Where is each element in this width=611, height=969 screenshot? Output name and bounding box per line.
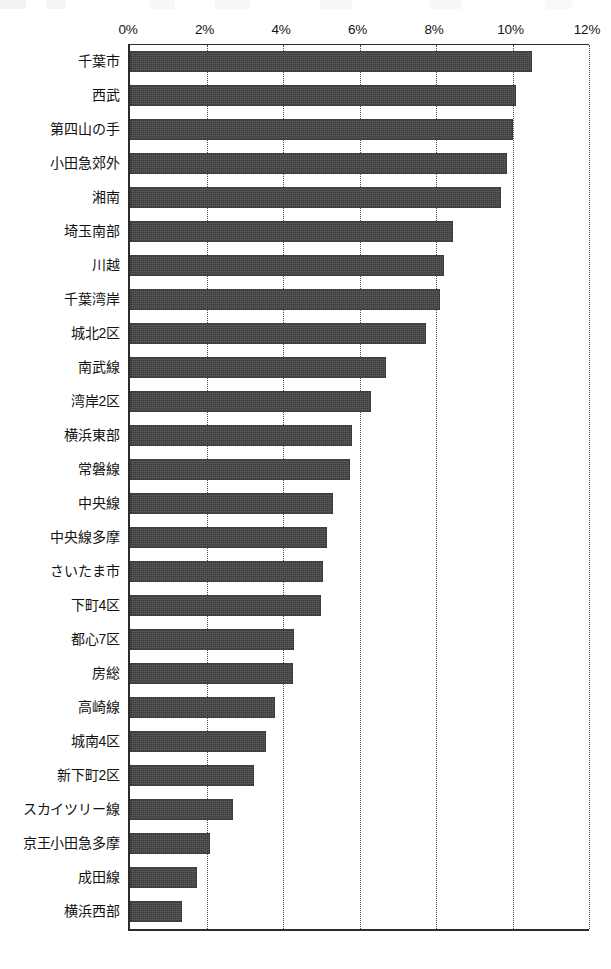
bar-row xyxy=(130,249,589,283)
bar-row xyxy=(130,113,589,147)
x-axis-tick-labels: 0%2%4%6%8%10%12% xyxy=(0,21,611,39)
y-axis-label-row: 城北2区 xyxy=(0,316,124,350)
bar xyxy=(130,391,371,412)
y-axis-label-row: 川越 xyxy=(0,248,124,282)
bar xyxy=(130,323,426,344)
x-tick-label: 4% xyxy=(271,21,290,39)
bar xyxy=(130,119,513,140)
y-axis-label: 京王小田急多摩 xyxy=(23,833,124,853)
y-axis-label-row: 横浜西部 xyxy=(0,894,124,928)
bar-row xyxy=(130,589,589,623)
y-axis-label-row: 千葉市 xyxy=(0,44,124,78)
y-axis-label-row: 南武線 xyxy=(0,350,124,384)
bar-row xyxy=(130,79,589,113)
y-axis-label: 小田急郊外 xyxy=(50,153,124,173)
y-axis-label: 横浜東部 xyxy=(64,425,124,445)
bar-row xyxy=(130,521,589,555)
y-axis-label: 湾岸2区 xyxy=(71,391,124,411)
y-axis-label-row: 第四山の手 xyxy=(0,112,124,146)
bar xyxy=(130,187,501,208)
y-axis-label-row: 西武 xyxy=(0,78,124,112)
y-axis-label: さいたま市 xyxy=(50,561,124,581)
bar-row xyxy=(130,283,589,317)
bar xyxy=(130,221,453,242)
y-axis-label: 千葉市 xyxy=(78,51,124,71)
y-axis-label: 西武 xyxy=(92,85,124,105)
y-axis-label: スカイツリー線 xyxy=(23,799,124,819)
bar-row xyxy=(130,317,589,351)
bar-row xyxy=(130,385,589,419)
bar xyxy=(130,629,294,650)
bar xyxy=(130,799,233,820)
y-axis-label-row: スカイツリー線 xyxy=(0,792,124,826)
y-axis-label: 中央線多摩 xyxy=(50,527,124,547)
y-axis-label: 第四山の手 xyxy=(50,119,124,139)
y-axis-label-row: 城南4区 xyxy=(0,724,124,758)
bar xyxy=(130,731,266,752)
y-axis-label-row: 下町4区 xyxy=(0,588,124,622)
bar xyxy=(130,289,440,310)
bar xyxy=(130,561,323,582)
y-axis-label: 常磐線 xyxy=(78,459,124,479)
x-tick-label: 10% xyxy=(497,21,523,39)
y-axis-label: 高崎線 xyxy=(78,697,124,717)
bar xyxy=(130,425,352,446)
y-axis-label-row: 横浜東部 xyxy=(0,418,124,452)
bar xyxy=(130,459,350,480)
x-tick-label: 6% xyxy=(348,21,367,39)
y-axis-label: 都心7区 xyxy=(71,629,124,649)
bar-row xyxy=(130,623,589,657)
bar-row xyxy=(130,725,589,759)
y-axis-label: 城南4区 xyxy=(71,731,124,751)
bar-row xyxy=(130,691,589,725)
y-axis-label-row: 埼玉南部 xyxy=(0,214,124,248)
y-axis-label-row: 中央線 xyxy=(0,486,124,520)
bar-row xyxy=(130,827,589,861)
bar xyxy=(130,663,293,684)
y-axis-label: 新下町2区 xyxy=(57,765,124,785)
bar-row xyxy=(130,657,589,691)
plot-area xyxy=(128,44,589,931)
y-axis-label-row: 湘南 xyxy=(0,180,124,214)
y-axis-label-row: 高崎線 xyxy=(0,690,124,724)
bar xyxy=(130,51,532,72)
x-tick-label: 12% xyxy=(574,21,600,39)
bar xyxy=(130,493,333,514)
bar-row xyxy=(130,215,589,249)
gridline xyxy=(589,45,590,929)
bar xyxy=(130,901,182,922)
bar-row xyxy=(130,555,589,589)
y-axis-label-row: 房総 xyxy=(0,656,124,690)
y-axis-label: 湘南 xyxy=(92,187,124,207)
bar-row xyxy=(130,453,589,487)
y-axis-label: 成田線 xyxy=(78,867,124,887)
bar xyxy=(130,595,321,616)
x-tick-label: 0% xyxy=(118,21,137,39)
bar-row xyxy=(130,759,589,793)
y-axis-label-row: 成田線 xyxy=(0,860,124,894)
bar xyxy=(130,85,516,106)
y-axis-category-labels: 千葉市西武第四山の手小田急郊外湘南埼玉南部川越千葉湾岸城北2区南武線湾岸2区横浜… xyxy=(0,44,124,928)
y-axis-label: 下町4区 xyxy=(71,595,124,615)
y-axis-label-row: 新下町2区 xyxy=(0,758,124,792)
y-axis-label: 城北2区 xyxy=(71,323,124,343)
bar-row xyxy=(130,793,589,827)
y-axis-label-row: 小田急郊外 xyxy=(0,146,124,180)
bar xyxy=(130,255,444,276)
y-axis-label: 南武線 xyxy=(78,357,124,377)
horizontal-bar-chart: 0%2%4%6%8%10%12% 千葉市西武第四山の手小田急郊外湘南埼玉南部川越… xyxy=(0,0,611,969)
y-axis-label-row: さいたま市 xyxy=(0,554,124,588)
y-axis-label: 房総 xyxy=(92,663,124,683)
bar xyxy=(130,357,386,378)
x-tick-label: 8% xyxy=(424,21,443,39)
bar-row xyxy=(130,147,589,181)
bar-row xyxy=(130,181,589,215)
y-axis-label: 埼玉南部 xyxy=(64,221,124,241)
y-axis-label-row: 千葉湾岸 xyxy=(0,282,124,316)
y-axis-label-row: 湾岸2区 xyxy=(0,384,124,418)
y-axis-label-row: 京王小田急多摩 xyxy=(0,826,124,860)
bar-row xyxy=(130,895,589,929)
bar-row xyxy=(130,419,589,453)
y-axis-label-row: 常磐線 xyxy=(0,452,124,486)
bar xyxy=(130,833,210,854)
